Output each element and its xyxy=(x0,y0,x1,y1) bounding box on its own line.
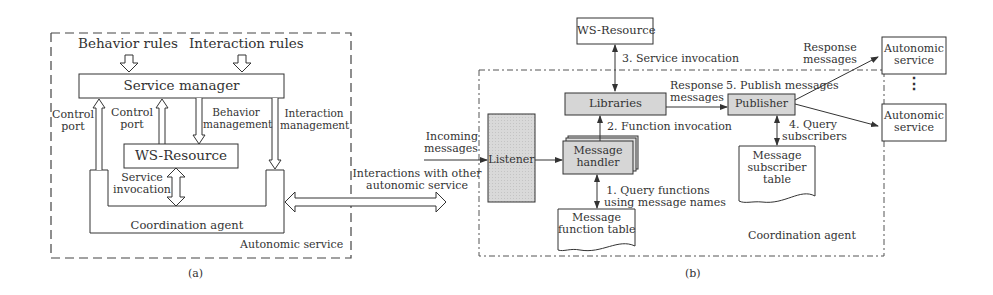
incoming-messages-line-2: messages xyxy=(420,143,478,155)
message-handler-label: Message handler xyxy=(563,145,633,169)
autonomic-service-2-label: Autonomic service xyxy=(882,110,946,134)
step1-label: 1. Query functions using message names xyxy=(604,185,712,209)
interactions-label: Interactions with other autonomic servic… xyxy=(351,168,483,192)
step1-line-2: using message names xyxy=(604,197,712,209)
step2-label: 2. Function invocation xyxy=(607,121,732,133)
message-function-table-line-2: function table xyxy=(558,224,635,236)
caption-b: (b) xyxy=(685,268,701,280)
interaction-rules-label: Interaction rules xyxy=(189,36,304,51)
autonomic-service-container-label: Autonomic service xyxy=(240,239,343,251)
caption-a: (a) xyxy=(188,268,203,280)
coordination-agent-b-label: Coordination agent xyxy=(748,230,856,242)
listener-label: Listener xyxy=(488,154,535,166)
control-port-outer-arrow-icon xyxy=(93,99,105,170)
interaction-rules-arrow-icon xyxy=(233,55,251,72)
service-invocation-a-label: Service invocation xyxy=(112,172,172,196)
interaction-management-label: Interaction management xyxy=(280,107,348,131)
behavior-management-line-2: management xyxy=(203,118,269,130)
step5-label: 5. Publish messages xyxy=(726,80,839,92)
ws-resource-b-label: WS-Resource xyxy=(577,24,653,36)
control-port-inner-line-2: port xyxy=(110,119,154,131)
message-handler-line-2: handler xyxy=(563,157,633,169)
step3-label: 3. Service invocation xyxy=(622,53,739,65)
libraries-label: Libraries xyxy=(565,97,666,109)
interaction-management-line-1: Interaction xyxy=(280,107,348,119)
behavior-management-label: Behavior management xyxy=(203,106,269,130)
service-manager-label: Service manager xyxy=(79,78,284,93)
step4-line-2: subscribers xyxy=(782,131,844,143)
behavior-rules-label: Behavior rules xyxy=(78,36,178,51)
autonomic-service-1-label: Autonomic service xyxy=(882,43,946,67)
behavior-rules-arrow-icon xyxy=(120,55,138,72)
behavior-management-line-1: Behavior xyxy=(203,106,269,118)
response-messages-mid-label: Response messages xyxy=(670,80,724,104)
autonomic-service-1-line-2: service xyxy=(882,55,946,67)
service-invocation-a-line-2: invocation xyxy=(112,184,172,196)
message-subscriber-table-label: Message subscriber table xyxy=(739,150,815,186)
response-messages-top-label: Response messages xyxy=(800,42,860,66)
ellipsis-icon: ⋮ xyxy=(906,78,922,90)
message-subscriber-table-line-3: table xyxy=(739,174,815,186)
response-messages-mid-line-2: messages xyxy=(670,92,724,104)
step4-label: 4. Query subscribers xyxy=(782,119,844,143)
control-port-inner-arrow-icon xyxy=(156,99,168,146)
interactions-double-arrow-icon xyxy=(285,192,446,212)
interactions-line-2: autonomic service xyxy=(351,180,483,192)
control-port-outer-label: Control port xyxy=(52,109,94,133)
autonomic-service-2-line-2: service xyxy=(882,122,946,134)
response-messages-top-line-2: messages xyxy=(800,54,860,66)
incoming-messages-label: Incoming messages xyxy=(420,131,478,155)
coordination-agent-a-label: Coordination agent xyxy=(90,219,284,231)
publisher-label: Publisher xyxy=(728,98,795,110)
control-port-outer-line-2: port xyxy=(52,121,94,133)
interaction-management-line-2: management xyxy=(280,119,348,131)
control-port-inner-label: Control port xyxy=(110,107,154,131)
message-function-table-label: Message function table xyxy=(558,212,635,236)
ws-resource-a-label: WS-Resource xyxy=(124,148,238,163)
